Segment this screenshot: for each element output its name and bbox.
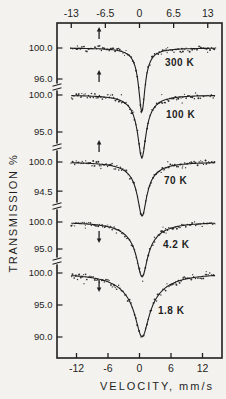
data-point (143, 213, 144, 214)
data-point (78, 222, 79, 223)
data-points (70, 221, 215, 282)
data-point (175, 282, 176, 283)
plot-frame (57, 23, 222, 358)
x-tick-label: 6 (168, 362, 174, 374)
data-point (146, 260, 147, 261)
data-point (81, 93, 82, 94)
data-point (209, 272, 211, 274)
data-point (80, 96, 82, 98)
data-point (165, 102, 166, 103)
arrow-up-icon (97, 140, 102, 152)
data-point (107, 279, 109, 281)
arrow-head (97, 70, 102, 75)
data-point (174, 164, 176, 166)
data-point (170, 228, 171, 229)
data-point (133, 119, 135, 121)
data-point (103, 97, 105, 99)
data-point (78, 274, 80, 276)
data-point (129, 299, 131, 301)
data-point (146, 323, 148, 325)
data-point (161, 102, 163, 104)
data-point (105, 279, 107, 281)
data-point (105, 97, 107, 99)
data-point (176, 228, 178, 230)
data-point (178, 98, 179, 99)
data-point (197, 97, 199, 99)
data-point (89, 97, 91, 99)
data-point (192, 162, 193, 163)
data-point (89, 162, 91, 164)
data-point (203, 222, 204, 223)
data-point (207, 47, 209, 49)
data-point (202, 226, 203, 227)
data-point (85, 93, 86, 94)
data-point (167, 161, 168, 162)
x-tick-label: -13 (64, 7, 79, 19)
data-point (140, 336, 141, 337)
arrow-down-icon (97, 231, 102, 243)
data-point (187, 163, 189, 165)
data-point (105, 225, 106, 226)
data-point (94, 279, 96, 281)
data-point (209, 96, 210, 97)
data-point (141, 335, 142, 336)
data-point (131, 112, 133, 114)
data-point (131, 56, 132, 57)
y-axis-title: TRANSMISSION % (7, 154, 19, 273)
x-tick-label: 0 (137, 7, 143, 19)
axis-break-icon (53, 258, 62, 265)
y-tick-label: 95.0 (34, 299, 53, 310)
data-point (138, 267, 140, 269)
data-point (165, 290, 167, 292)
data-point (170, 98, 171, 99)
data-point (132, 307, 133, 308)
data-point (203, 164, 204, 165)
data-point (148, 188, 149, 189)
data-point (211, 47, 212, 48)
data-point (92, 276, 93, 277)
data-point (97, 161, 99, 163)
data-point (113, 47, 115, 49)
data-point (70, 225, 72, 227)
data-point (110, 164, 112, 166)
data-point (88, 48, 90, 50)
data-point (158, 234, 160, 236)
data-point (88, 277, 89, 278)
data-point (90, 276, 91, 277)
data-point (187, 50, 188, 51)
data-point (129, 54, 131, 56)
data-point (97, 45, 99, 47)
fit-curve (71, 163, 215, 216)
data-point (121, 51, 123, 53)
y-tick-label: 94.5 (34, 186, 53, 197)
data-point (119, 287, 121, 289)
data-point (143, 274, 145, 276)
x-tick-label: 13 (202, 7, 214, 19)
data-point (102, 280, 103, 281)
data-point (178, 226, 180, 228)
data-point (106, 48, 108, 50)
data-point (195, 278, 197, 280)
data-point (70, 47, 72, 49)
data-point (108, 96, 110, 98)
data-point (128, 174, 129, 175)
data-point (175, 226, 176, 227)
data-point (211, 274, 213, 276)
data-point (122, 101, 124, 103)
data-point (113, 284, 115, 286)
data-point (114, 50, 116, 52)
data-point (156, 53, 157, 54)
data-point (155, 173, 157, 175)
data-point (170, 50, 171, 51)
data-point (137, 196, 138, 197)
data-point (196, 94, 198, 96)
data-point (83, 222, 84, 223)
data-point (99, 224, 100, 225)
data-point (191, 49, 193, 51)
data-point (197, 164, 199, 166)
data-point (168, 167, 170, 169)
data-point (140, 213, 142, 215)
data-point (110, 284, 112, 286)
data-point (161, 94, 162, 95)
arrow-up-icon (97, 27, 102, 39)
